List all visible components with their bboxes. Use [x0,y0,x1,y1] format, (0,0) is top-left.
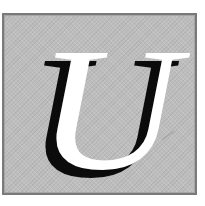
drop-cap-frame: U U [2,13,197,195]
drop-cap-letter: U [37,21,179,195]
